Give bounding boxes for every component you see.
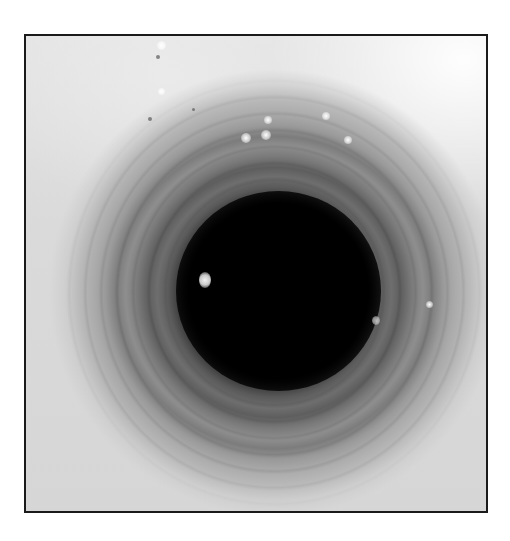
mucosal-spot — [156, 55, 160, 59]
dark-lumen — [176, 191, 381, 391]
mucosal-spot — [148, 117, 152, 121]
mucosal-speck — [264, 116, 272, 124]
mucosal-speck — [261, 130, 271, 140]
light-reflection — [199, 272, 211, 288]
mucosal-speck — [157, 41, 166, 50]
mucosal-speck — [241, 133, 251, 143]
mucosal-speck — [344, 136, 352, 144]
mucosal-speck — [322, 112, 330, 120]
mucosal-speck — [426, 301, 433, 308]
mucosal-spot — [192, 108, 195, 111]
image-frame — [24, 34, 488, 513]
light-reflection-small — [372, 316, 380, 325]
mucosal-speck — [158, 88, 165, 95]
